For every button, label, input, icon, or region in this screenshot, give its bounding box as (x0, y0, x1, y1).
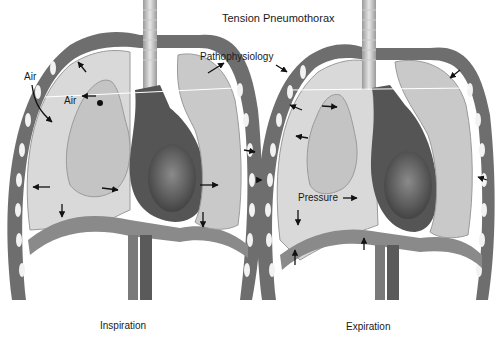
label-pressure: Pressure (298, 193, 338, 203)
heart (384, 151, 432, 219)
heart (148, 144, 196, 212)
expiration-panel (244, 0, 495, 300)
caption-expiration: Expiration (346, 322, 390, 332)
inspiration-panel (8, 0, 262, 300)
diagram-subtitle: Pathophysiology (200, 52, 273, 62)
caption-inspiration: Inspiration (100, 321, 146, 331)
label-air-outer: Air (24, 72, 36, 82)
trachea (362, 0, 376, 90)
diagram-title: Tension Pneumothorax (222, 13, 335, 24)
label-air-inner: Air (64, 96, 76, 106)
trachea (143, 0, 157, 95)
